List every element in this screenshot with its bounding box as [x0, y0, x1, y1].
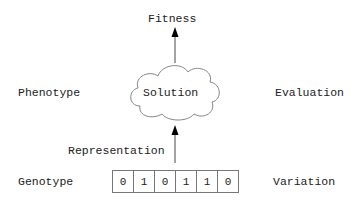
- genotype-bitstring: 0 1 0 1 1 0: [112, 170, 239, 193]
- evaluation-label: Evaluation: [275, 87, 344, 99]
- phenotype-label: Phenotype: [18, 87, 80, 99]
- variation-label: Variation: [273, 176, 335, 188]
- representation-label: Representation: [68, 145, 165, 157]
- solution-label: Solution: [143, 87, 198, 99]
- genotype-label: Genotype: [18, 176, 73, 188]
- bit-cell: 0: [154, 170, 176, 193]
- fitness-label: Fitness: [148, 13, 196, 25]
- fitness-arrowhead-icon: [172, 27, 179, 37]
- bit-cell: 1: [175, 170, 197, 193]
- bit-cell: 1: [196, 170, 218, 193]
- representation-arrowhead-icon: [172, 125, 179, 135]
- bit-cell: 0: [217, 170, 239, 193]
- bit-cell: 1: [133, 170, 155, 193]
- bit-cell: 0: [112, 170, 134, 193]
